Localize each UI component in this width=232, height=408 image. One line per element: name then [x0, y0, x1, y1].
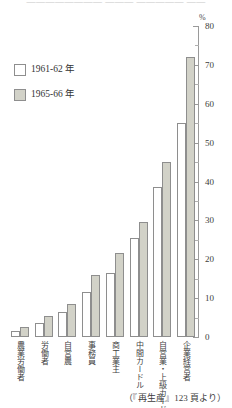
- cropped-header-text: ———————— ——— ————— ——: [0, 0, 232, 9]
- bar-series1: [177, 123, 186, 337]
- bar-series1: [130, 238, 139, 337]
- source-note: （『再生産』123 頁より）: [124, 393, 226, 403]
- x-category-label: 農業労働者: [15, 341, 24, 393]
- bar-series2: [139, 222, 148, 337]
- bar-group: [127, 18, 151, 337]
- y-tick-label: 50: [205, 139, 214, 148]
- x-category-label: 自営農: [63, 341, 72, 393]
- bar-series2: [20, 327, 29, 337]
- chart-figure: ———————— ——— ————— —— % 0102030405060708…: [0, 0, 232, 408]
- legend-label-1961-62: 1961-62 年: [31, 65, 75, 75]
- x-category-cell: 商工業主: [103, 341, 127, 393]
- legend-swatch-icon-1965-66: [14, 89, 26, 101]
- x-category-cell: 事務員: [79, 341, 103, 393]
- x-axis-category-labels: 農業労働者労働者自営農事務員商工業主中間カードル自営業・上級カードル企業経営者: [8, 341, 198, 393]
- bar-series1: [153, 187, 162, 337]
- bar-series2: [67, 304, 76, 337]
- bar-series2: [186, 57, 195, 337]
- bar-group: [103, 18, 127, 337]
- y-tick-label: 10: [205, 294, 214, 303]
- bar-series1: [82, 292, 91, 337]
- cropped-header-label: ———————— ——— ————— ——: [0, 0, 232, 6]
- legend: 1961-62 年 1965-66 年: [14, 64, 75, 114]
- x-category-cell: 労働者: [32, 341, 56, 393]
- bar-series2: [91, 275, 100, 337]
- bar-series2: [115, 253, 124, 337]
- x-category-cell: 農業労働者: [8, 341, 32, 393]
- legend-item-1965-66: 1965-66 年: [14, 89, 75, 101]
- bar-group: [151, 18, 175, 337]
- x-category-label: 事務員: [87, 341, 96, 393]
- bar-series2: [44, 316, 53, 337]
- bar-series1: [106, 273, 115, 337]
- x-category-label: 中間カードル: [134, 341, 143, 393]
- bar-group: [79, 18, 103, 337]
- x-category-label: 企業経営者: [182, 341, 191, 393]
- x-category-cell: 中間カードル: [127, 341, 151, 393]
- x-category-label: 自営業・上級カードル: [158, 341, 167, 393]
- y-tick-label: 0: [205, 333, 210, 342]
- y-tick-label: 70: [205, 61, 214, 70]
- y-tick-label: 60: [205, 100, 214, 109]
- x-category-cell: 企業経営者: [174, 341, 198, 393]
- x-category-label: 商工業主: [110, 341, 119, 393]
- x-category-cell: 自営農: [56, 341, 80, 393]
- x-category-label: 労働者: [39, 341, 48, 393]
- y-tick-label: 30: [205, 216, 214, 225]
- bar-series1: [11, 331, 20, 337]
- legend-label-1965-66: 1965-66 年: [31, 90, 75, 100]
- y-tick-label: 80: [205, 22, 214, 31]
- x-category-cell: 自営業・上級カードル: [151, 341, 175, 393]
- y-tick-label: 20: [205, 255, 214, 264]
- legend-item-1961-62: 1961-62 年: [14, 64, 75, 76]
- y-tick-mark: [193, 337, 199, 338]
- bar-series1: [58, 312, 67, 337]
- y-tick-label: 40: [205, 178, 214, 187]
- bar-series1: [35, 323, 44, 337]
- bar-group: [174, 18, 198, 337]
- bar-series2: [162, 162, 171, 337]
- legend-swatch-icon-1961-62: [14, 64, 26, 76]
